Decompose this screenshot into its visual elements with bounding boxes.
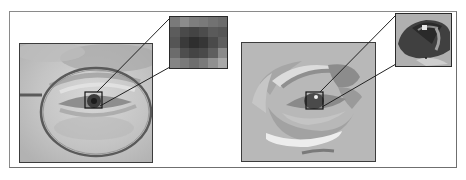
right-zoom-inset: Magnified region of segmented pupil	[395, 13, 452, 67]
eye-photo-image	[20, 44, 152, 162]
stylized-eye-image	[242, 43, 375, 161]
right-stylized-panel: Stylized / segmented rendering of the ey…	[241, 42, 376, 162]
stylized-zoom-image	[396, 14, 451, 66]
pixel-grid-image	[170, 17, 227, 68]
left-zoom-inset: Magnified pixel grid of pupil region	[169, 16, 228, 69]
left-photo-panel: Original photo: eye behind eyeglasses	[19, 43, 153, 163]
